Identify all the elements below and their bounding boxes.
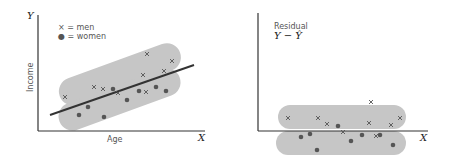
- y-axis-symbol: Y: [27, 10, 35, 21]
- residual-x-symbol: X: [419, 132, 428, 143]
- legend-women: ● = women: [58, 32, 106, 41]
- residual-formula: Y − Ŷ: [274, 30, 303, 41]
- right-plot: Residual Y − Ŷ X: [258, 13, 428, 155]
- x-axis-symbol: X: [197, 132, 206, 143]
- figure: Y X Income Age × = men ● = women: [0, 0, 452, 156]
- women-residual-band: [276, 131, 406, 155]
- x-axis-label: Age: [107, 135, 123, 144]
- left-plot: Y X Income Age × = men ● = women: [26, 10, 206, 144]
- legend-men: × = men: [58, 23, 94, 32]
- y-axis-label: Income: [26, 62, 35, 92]
- men-residual-band: [278, 105, 406, 129]
